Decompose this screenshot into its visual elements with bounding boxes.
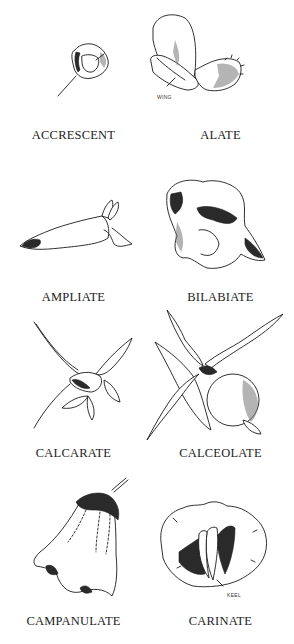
callout-wing: WING (157, 94, 172, 100)
figure-campanulate: CAMPANULATE (0, 470, 147, 644)
figure-accrescent: ACCRESCENT (0, 0, 147, 150)
term-label: ALATE (147, 128, 294, 143)
figure-calceolate: CALCEOLATE (147, 310, 294, 470)
term-label: CARINATE (147, 614, 294, 629)
figure-ampliate: AMPLIATE (0, 160, 147, 320)
term-label: AMPLIATE (0, 290, 147, 305)
figure-alate: WING ALATE (147, 0, 294, 150)
term-label: CALCEOLATE (147, 446, 294, 461)
term-label: CALCARATE (0, 446, 147, 461)
figure-carinate: KEEL CARINATE (147, 470, 294, 644)
term-label: BILABIATE (147, 290, 294, 305)
term-label: ACCRESCENT (0, 128, 147, 143)
term-label: CAMPANULATE (0, 614, 147, 629)
callout-keel: KEEL (227, 592, 241, 598)
figure-bilabiate: BILABIATE (147, 160, 294, 320)
figure-calcarate: CALCARATE (0, 310, 147, 470)
